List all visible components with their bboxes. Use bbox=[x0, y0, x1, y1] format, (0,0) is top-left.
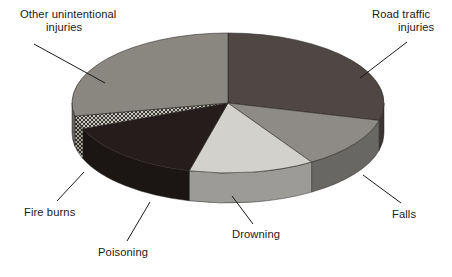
slice-label-fire-burns: Fire burns bbox=[24, 206, 76, 218]
pie-chart-figure: Road traffic injuries: 29%Falls: 12%Drow… bbox=[0, 0, 452, 277]
pie-top-faces-group: Road traffic injuries: 29%Falls: 12%Drow… bbox=[72, 33, 384, 173]
slice-label-line1-fire-burns: Fire burns bbox=[24, 206, 76, 218]
slice-label-line1-other-unintentional-injuries: Other unintentional bbox=[20, 8, 116, 20]
slice-label-line2-other-unintentional-injuries: injuries bbox=[46, 21, 83, 33]
slice-label-falls: Falls bbox=[392, 208, 416, 220]
slice-label-drowning: Drowning bbox=[232, 228, 280, 240]
slice-label-line1-falls: Falls bbox=[392, 208, 416, 220]
slice-label-line1-drowning: Drowning bbox=[232, 228, 280, 240]
slice-label-poisoning: Poisoning bbox=[98, 246, 148, 258]
slice-label-line1-poisoning: Poisoning bbox=[98, 246, 148, 258]
slice-label-line1-road-traffic-injuries: Road traffic bbox=[372, 8, 431, 20]
pie-chart-canvas: Road traffic injuries: 29%Falls: 12%Drow… bbox=[0, 0, 452, 277]
slice-label-line2-road-traffic-injuries: injuries bbox=[398, 21, 435, 33]
